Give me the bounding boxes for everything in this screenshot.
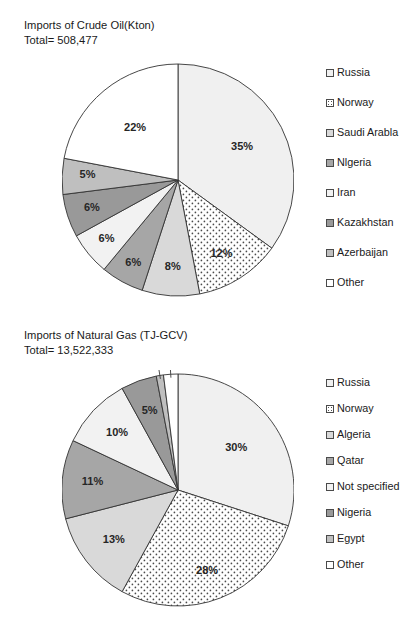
natural-gas-title: Imports of Natural Gas (TJ-GCV) bbox=[24, 328, 188, 343]
pie-slice-label: 5% bbox=[142, 404, 158, 416]
legend-item-label: Iran bbox=[337, 187, 356, 198]
legend-item-label: Norway bbox=[337, 403, 374, 414]
legend-item-label: Azerbaijan bbox=[337, 247, 388, 258]
legend-item-label: Not specified bbox=[337, 481, 399, 492]
legend-swatch-icon bbox=[326, 379, 334, 387]
crude-oil-pie-svg: 35%12%8%6%6%6%5%22% bbox=[62, 55, 294, 300]
pie-slice-label: 6% bbox=[99, 232, 115, 244]
legend-swatch-icon bbox=[326, 483, 334, 491]
legend-item[interactable]: Russia bbox=[326, 376, 399, 389]
legend-item[interactable]: Egypt bbox=[326, 532, 399, 545]
legend-swatch-icon bbox=[326, 159, 334, 167]
legend-item[interactable]: Nlgeria bbox=[326, 156, 398, 169]
legend-item-label: Other bbox=[337, 277, 364, 288]
legend-item[interactable]: Qatar bbox=[326, 454, 399, 467]
natural-gas-legend: RussiaNorwayAlgeriaQatarNot specifiedNig… bbox=[326, 376, 399, 584]
legend-item[interactable]: Russia bbox=[326, 66, 398, 79]
pie-slice-label: 10% bbox=[106, 426, 128, 438]
legend-item-label: Nlgeria bbox=[337, 157, 371, 168]
legend-item[interactable]: Saudi Arabla bbox=[326, 126, 398, 139]
legend-item[interactable]: Norway bbox=[326, 402, 399, 415]
natural-gas-total: Total= 13,522,333 bbox=[24, 343, 113, 358]
legend-item[interactable]: Azerbaijan bbox=[326, 246, 398, 259]
legend-swatch-icon bbox=[326, 431, 334, 439]
legend-item[interactable]: Not specified bbox=[326, 480, 399, 493]
legend-item[interactable]: Iran bbox=[326, 186, 398, 199]
legend-item[interactable]: Other bbox=[326, 558, 399, 571]
pie-slice-label: 13% bbox=[103, 533, 125, 545]
legend-item-label: Nigeria bbox=[337, 507, 371, 518]
legend-item[interactable]: Nigeria bbox=[326, 506, 399, 519]
legend-item-label: Russia bbox=[337, 67, 370, 78]
pie-slice-label: 6% bbox=[125, 256, 141, 268]
legend-swatch-icon bbox=[326, 219, 334, 227]
legend-swatch-icon bbox=[326, 509, 334, 517]
pie-slice-label: 22% bbox=[124, 121, 146, 133]
pie-slice-label: 30% bbox=[225, 441, 247, 453]
legend-swatch-icon bbox=[326, 561, 334, 569]
legend-swatch-icon bbox=[326, 99, 334, 107]
pie-slice-label: 35% bbox=[231, 140, 253, 152]
legend-swatch-icon bbox=[326, 457, 334, 465]
legend-swatch-icon bbox=[326, 129, 334, 137]
natural-gas-pie: 30%28%13%11%10%5%1%2% bbox=[62, 370, 294, 615]
crude-oil-pie: 35%12%8%6%6%6%5%22% bbox=[62, 55, 294, 300]
legend-item-label: Kazakhstan bbox=[337, 217, 393, 228]
legend-item-label: Russia bbox=[337, 377, 370, 388]
legend-swatch-icon bbox=[326, 279, 334, 287]
natural-gas-chart: Imports of Natural Gas (TJ-GCV) Total= 1… bbox=[0, 310, 420, 621]
legend-swatch-icon bbox=[326, 249, 334, 257]
legend-item[interactable]: Other bbox=[326, 276, 398, 289]
legend-item-label: Egypt bbox=[337, 533, 365, 544]
crude-oil-chart: Imports of Crude Oil(Kton) Total= 508,47… bbox=[0, 0, 420, 310]
legend-swatch-icon bbox=[326, 405, 334, 413]
legend-swatch-icon bbox=[326, 189, 334, 197]
legend-item[interactable]: Norway bbox=[326, 96, 398, 109]
pie-slice-label: 12% bbox=[210, 247, 232, 259]
crude-oil-legend: RussiaNorwaySaudi ArablaNlgeriaIranKazak… bbox=[326, 66, 398, 306]
legend-item-label: Norway bbox=[337, 97, 374, 108]
crude-oil-total: Total= 508,477 bbox=[24, 33, 98, 48]
legend-item[interactable]: Algeria bbox=[326, 428, 399, 441]
pie-slice-label: 8% bbox=[165, 260, 181, 272]
legend-item[interactable]: Kazakhstan bbox=[326, 216, 398, 229]
pie-slice-label: 6% bbox=[84, 201, 100, 213]
pie-slice-label: 5% bbox=[80, 168, 96, 180]
legend-item-label: Saudi Arabla bbox=[337, 127, 398, 138]
legend-swatch-icon bbox=[326, 535, 334, 543]
natural-gas-pie-svg: 30%28%13%11%10%5%1%2% bbox=[62, 370, 294, 615]
pie-slice-label: 28% bbox=[196, 564, 218, 576]
legend-item-label: Qatar bbox=[337, 455, 364, 466]
legend-swatch-icon bbox=[326, 69, 334, 77]
legend-item-label: Algeria bbox=[337, 429, 371, 440]
crude-oil-title: Imports of Crude Oil(Kton) bbox=[24, 18, 155, 33]
legend-item-label: Other bbox=[337, 559, 364, 570]
pie-slice-label: 11% bbox=[82, 475, 104, 487]
